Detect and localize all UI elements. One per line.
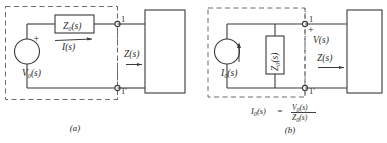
panel-b-voltage-label: V(s) xyxy=(313,35,329,46)
panel-b-equation-numerator: V0(s) xyxy=(292,103,308,113)
panel-a-load-box xyxy=(145,10,185,93)
panel-a-series-impedance-label: Z0(s) xyxy=(63,21,81,32)
panel-b-equation: I0(s) = V0(s) Z0(s) xyxy=(250,103,316,123)
panel-a-current-arrow-line xyxy=(55,39,92,41)
panel-a-polarity-plus-sign: + xyxy=(34,33,40,44)
panel-b-load-impedance-arrow-head xyxy=(339,66,344,69)
panel-b-source-label: I0(s) xyxy=(220,68,237,79)
panel-a-caption: (a) xyxy=(70,123,81,133)
panel-b-caption: (b) xyxy=(285,125,296,135)
panel-b-shunt-impedance-label: Z0(s) xyxy=(270,53,281,71)
panel-b-equation-lhs: I0(s) xyxy=(250,106,266,117)
panel-b-equation-denominator: Z0(s) xyxy=(292,113,308,123)
panel-b-equation-equals: = xyxy=(277,106,283,116)
panel-a-source-label: V0(s) xyxy=(22,68,41,79)
panel-a: Z0(s) I(s) + V0(s) 1 1' Z(s) (a) xyxy=(6,7,186,134)
panel-b-polarity-plus-sign: + xyxy=(308,24,314,35)
panel-a-current-arrow-head xyxy=(87,37,93,40)
circuit-diagram-svg: Z0(s) I(s) + V0(s) 1 1' Z(s) (a) xyxy=(0,0,387,143)
panel-b-terminal-1-label: 1 xyxy=(309,14,313,24)
panel-b-current-source-symbol xyxy=(215,39,240,64)
panel-a-load-impedance-arrow-head xyxy=(137,63,142,66)
panel-b-load-impedance-label: Z(s) xyxy=(317,53,332,64)
panel-a-load-impedance-label: Z(s) xyxy=(124,49,139,60)
panel-b: I0(s) Z0(s) 1 1' + V(s) Z(s) I0(s) = V0(… xyxy=(208,8,382,135)
panel-a-current-label: I(s) xyxy=(61,42,75,53)
panel-b-load-box xyxy=(347,10,382,93)
panel-a-terminal-1-label: 1 xyxy=(121,14,125,24)
circuit-figure: Z0(s) I(s) + V0(s) 1 1' Z(s) (a) xyxy=(0,0,387,143)
